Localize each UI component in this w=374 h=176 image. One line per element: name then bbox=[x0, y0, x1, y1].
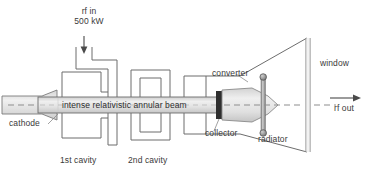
label-converter: converter bbox=[212, 68, 248, 78]
right-arrow-icon bbox=[330, 95, 361, 102]
down-arrow-icon bbox=[81, 36, 88, 54]
label-radiator: radiator bbox=[258, 134, 288, 144]
klystron-schematic-drawing bbox=[0, 0, 374, 176]
label-rf-out: rf out bbox=[334, 103, 354, 113]
input-waveguide bbox=[76, 36, 117, 98]
label-rf-in-line1: rf in bbox=[82, 6, 97, 16]
label-window: window bbox=[320, 58, 349, 68]
label-rf-in: rf in 500 kW bbox=[64, 6, 114, 26]
collector bbox=[216, 91, 222, 119]
label-rf-in-line2: 500 kW bbox=[74, 16, 103, 26]
label-first-cavity: 1st cavity bbox=[60, 155, 96, 165]
label-cathode: cathode bbox=[9, 118, 40, 128]
output-window bbox=[306, 38, 310, 152]
label-second-cavity: 2nd cavity bbox=[128, 155, 167, 165]
label-beam: intense relativistic annular beam bbox=[62, 100, 187, 110]
label-collector: collector bbox=[205, 128, 238, 138]
figure-canvas: rf in 500 kW cathode intense relativisti… bbox=[0, 0, 374, 176]
